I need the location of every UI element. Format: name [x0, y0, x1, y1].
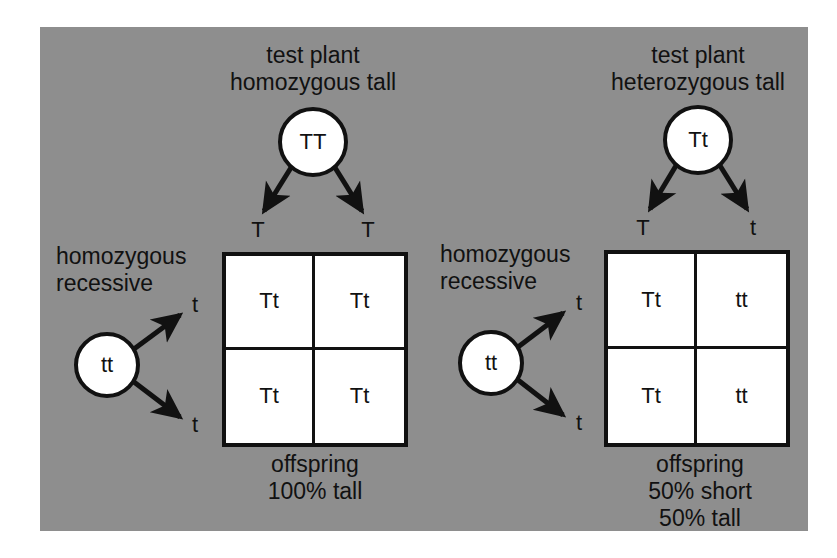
- left-top-parent-circle: TT: [278, 107, 348, 177]
- right-side-gamete-label-2: t: [576, 412, 582, 434]
- arrow-left-side-gamete-2: [134, 382, 180, 417]
- arrow-right-top-gamete-1: [650, 164, 677, 209]
- arrow-left-top-gamete-2: [334, 166, 362, 211]
- left-result-line2: 100% tall: [268, 478, 363, 505]
- left-side-parent-caption-line2: recessive: [56, 270, 153, 297]
- right-side-parent-circle: tt: [458, 330, 524, 396]
- right-punnett-square: Tt tt Tt tt: [604, 250, 790, 447]
- left-punnett-square: Tt Tt Tt Tt: [222, 252, 408, 447]
- right-top-parent-circle: Tt: [663, 105, 733, 175]
- right-result-line1: offspring: [656, 451, 744, 478]
- right-punnett-cell-3: tt: [697, 349, 786, 444]
- right-side-parent-caption-line2: recessive: [440, 268, 537, 295]
- left-top-gamete-label-1: T: [251, 219, 264, 241]
- left-top-parent-genotype: TT: [300, 129, 327, 155]
- left-top-gamete-label-2: T: [361, 219, 374, 241]
- right-result-line2: 50% short: [648, 478, 752, 505]
- left-side-parent-caption-line1: homozygous: [56, 243, 186, 270]
- arrow-left-top-gamete-1: [264, 166, 292, 211]
- right-side-parent-caption-line1: homozygous: [440, 241, 570, 268]
- right-top-gamete-label-1: T: [636, 217, 649, 239]
- right-side-parent-genotype: tt: [485, 350, 497, 376]
- right-punnett-cell-0: Tt: [608, 254, 697, 349]
- left-punnett-cell-1: Tt: [315, 256, 404, 350]
- left-side-parent-circle: tt: [74, 332, 140, 398]
- arrow-left-side-gamete-1: [134, 315, 180, 349]
- left-top-parent-caption-line2: homozygous tall: [230, 69, 396, 96]
- arrow-right-top-gamete-2: [719, 164, 747, 209]
- arrow-right-side-gamete-2: [518, 380, 563, 415]
- arrow-right-side-gamete-1: [518, 313, 563, 347]
- left-result-line1: offspring: [271, 451, 359, 478]
- left-side-gamete-label-2: t: [192, 414, 198, 436]
- punnett-square-figure: test plant homozygous tall TT T T homozy…: [0, 0, 837, 558]
- diagram-panel: test plant homozygous tall TT T T homozy…: [40, 27, 808, 531]
- left-top-parent-caption-line1: test plant: [266, 42, 359, 69]
- right-top-gamete-label-2: t: [750, 217, 756, 239]
- right-side-gamete-label-1: t: [576, 292, 582, 314]
- right-punnett-cell-2: Tt: [608, 349, 697, 444]
- right-top-parent-genotype: Tt: [688, 127, 708, 153]
- left-punnett-cell-0: Tt: [226, 256, 315, 350]
- left-side-parent-genotype: tt: [101, 352, 113, 378]
- left-punnett-cell-2: Tt: [226, 350, 315, 444]
- right-punnett-cell-1: tt: [697, 254, 786, 349]
- right-top-parent-caption-line2: heterozygous tall: [611, 69, 785, 96]
- left-punnett-cell-3: Tt: [315, 350, 404, 444]
- right-top-parent-caption-line1: test plant: [651, 42, 744, 69]
- left-side-gamete-label-1: t: [192, 294, 198, 316]
- right-result-line3: 50% tall: [659, 505, 741, 531]
